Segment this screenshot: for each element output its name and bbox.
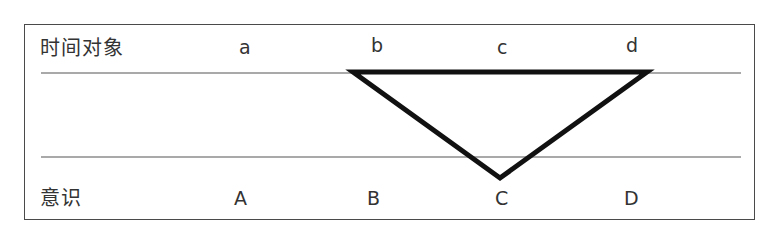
bottom-label-D: D: [624, 189, 639, 208]
top-label-c: c: [497, 38, 507, 57]
top-row-title: 时间对象: [40, 38, 124, 58]
top-label-d: d: [626, 36, 638, 55]
bottom-row-title: 意识: [40, 188, 82, 208]
top-label-a: a: [239, 38, 251, 57]
top-label-b: b: [371, 36, 383, 55]
bottom-label-B: B: [367, 189, 380, 208]
bottom-label-C: C: [495, 189, 508, 208]
time-consciousness-diagram: 时间对象 a b c d 意识 A B C D: [0, 0, 775, 241]
inverted-triangle: [353, 72, 647, 178]
bottom-label-A: A: [234, 189, 247, 208]
